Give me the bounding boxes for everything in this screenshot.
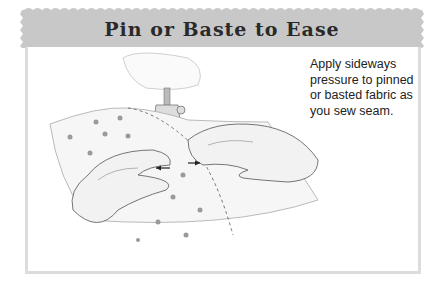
sewing-illustration xyxy=(28,50,328,245)
instruction-caption: Apply sideways pressure to pinned or bas… xyxy=(310,57,420,119)
page-title: Pin or Baste to Ease xyxy=(24,14,420,44)
